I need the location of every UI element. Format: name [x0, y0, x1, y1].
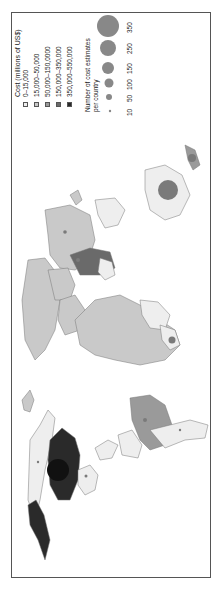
bubble-brazil — [143, 418, 147, 422]
region-japan — [70, 190, 82, 205]
bubble-label-250: 250 — [126, 43, 133, 54]
cost-class-label: 50,000–150,0000 — [44, 46, 51, 97]
bubble-legend-title: Number of cost estimates — [84, 38, 91, 112]
bubble-label-350: 350 — [126, 22, 133, 33]
bubble-new-zealand — [188, 154, 196, 162]
swatch-150000-350000 — [56, 102, 61, 107]
bubble-label-100: 100 — [126, 79, 133, 90]
bubble-legend-subtitle: per country — [92, 79, 99, 112]
bubble-label-150: 150 — [126, 63, 133, 74]
cost-class-label: 150,000–350,000 — [55, 46, 62, 97]
region-mexico — [78, 465, 98, 495]
swatch-15000-50000 — [34, 102, 39, 107]
swatch-50000-150000 — [45, 102, 50, 107]
swatch-0-15000 — [23, 102, 28, 107]
bubble-mexico — [85, 475, 88, 478]
bubble-russia — [63, 230, 67, 234]
region-southeast-asia — [95, 198, 125, 228]
bubble-canada — [37, 461, 39, 463]
cost-class-label: 0–15,000 — [22, 70, 29, 97]
region-greenland — [22, 390, 34, 412]
cost-class-label: 15,000–50,000 — [33, 54, 40, 97]
bubble-argentina — [179, 429, 181, 431]
bubble-label-10: 10 — [126, 109, 133, 116]
bubble-south-africa — [169, 337, 176, 344]
cost-class-label: 350,000–550,000 — [66, 46, 73, 97]
region-central-america — [95, 440, 118, 460]
bubble-label-50: 50 — [126, 95, 133, 102]
cost-legend-title: Cost (millions of US$) — [14, 29, 21, 97]
region-alaska — [28, 500, 50, 560]
bubble-usa — [47, 459, 69, 481]
swatch-350000-550000 — [67, 102, 72, 107]
bubble-australia — [158, 180, 178, 200]
bubble-china — [76, 258, 80, 262]
